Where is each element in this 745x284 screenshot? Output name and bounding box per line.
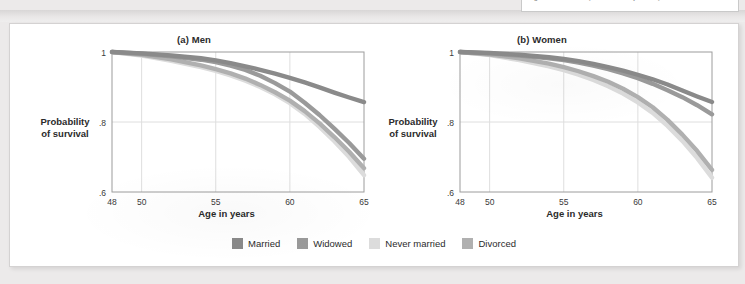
series-line-widowed — [112, 52, 364, 159]
legend-label: Divorced — [478, 238, 516, 249]
chart-panel-women: (b) Women Probabilityof survival 4850556… — [362, 24, 722, 224]
x-tick-label: 65 — [707, 197, 717, 207]
x-tick-label: 48 — [107, 197, 117, 207]
legend-label: Married — [248, 238, 280, 249]
legend-swatch — [462, 238, 473, 249]
x-tick-label: 48 — [455, 197, 465, 207]
x-tick-label: 50 — [485, 197, 495, 207]
y-tick-label: 1 — [101, 48, 106, 58]
legend-label: Never married — [385, 238, 445, 249]
x-tick-label: 50 — [137, 197, 147, 207]
y-tick-label: .8 — [99, 118, 106, 128]
legend-swatch — [297, 238, 308, 249]
chart-panel-men: (a) Men Probabilityof survival 485055606… — [14, 24, 374, 224]
legend-item: Married — [232, 238, 280, 249]
plot-area-women: 4850556065.6.81 — [362, 24, 722, 224]
y-tick-label: .8 — [447, 118, 454, 128]
y-tick-label: .6 — [447, 188, 454, 198]
chart-legend: MarriedWidowedNever marriedDivorced — [10, 230, 738, 256]
x-tick-label: 60 — [633, 197, 643, 207]
series-line-never-married — [112, 52, 364, 175]
x-tick-label: 55 — [211, 197, 221, 207]
x-axis-title-men: Age in years — [94, 208, 359, 219]
series-line-divorced — [460, 52, 712, 170]
clipped-text-box: if god let him live! (Ehara & Nanji, 111… — [521, 0, 739, 12]
legend-item: Never married — [369, 238, 445, 249]
y-tick-label: 1 — [449, 48, 454, 58]
y-tick-label: .6 — [99, 188, 106, 198]
series-line-never-married — [460, 52, 712, 178]
legend-swatch — [369, 238, 380, 249]
clipped-text: if god let him live! (Ehara & Nanji, 111… — [528, 0, 661, 1]
legend-item: Widowed — [297, 238, 352, 249]
x-tick-label: 60 — [285, 197, 295, 207]
legend-item: Divorced — [462, 238, 516, 249]
legend-label: Widowed — [313, 238, 352, 249]
legend-swatch — [232, 238, 243, 249]
x-axis-title-women: Age in years — [442, 208, 707, 219]
plot-area-men: 4850556065.6.81 — [14, 24, 374, 224]
x-tick-label: 55 — [559, 197, 569, 207]
figure-card: (a) Men Probabilityof survival 485055606… — [9, 23, 739, 267]
